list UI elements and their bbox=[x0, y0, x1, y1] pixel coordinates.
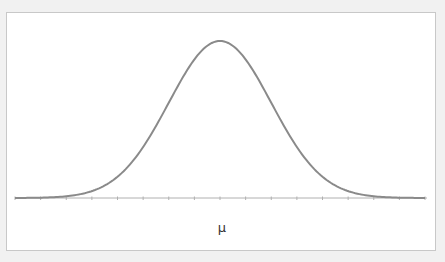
normal-curve bbox=[15, 41, 425, 198]
mean-label: μ bbox=[214, 220, 230, 235]
